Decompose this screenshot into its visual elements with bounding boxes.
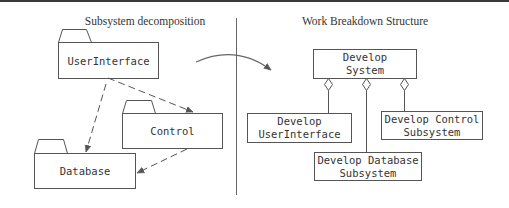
diamond-icon xyxy=(325,79,333,91)
wbs-develop-userinterface[interactable]: Develop UserInterface xyxy=(248,114,352,143)
package-tab-icon xyxy=(123,101,156,114)
wbs-label-line1: Develop Control xyxy=(385,113,480,125)
package-tab-icon xyxy=(59,30,92,43)
dependency-control-to-database xyxy=(137,149,187,173)
package-control[interactable]: Control xyxy=(123,101,223,149)
wbs-label-line1: Develop Database xyxy=(317,154,418,166)
dependency-ui-to-database xyxy=(86,84,106,152)
diagram-canvas: Subsystem decomposition UserInterface Co… xyxy=(0,0,509,208)
aggregation-control xyxy=(401,79,409,112)
package-userinterface[interactable]: UserInterface xyxy=(59,30,159,79)
left-panel-title: Subsystem decomposition xyxy=(85,15,206,28)
diamond-icon xyxy=(401,79,409,91)
wbs-label-line2: System xyxy=(346,64,384,76)
package-tab-icon xyxy=(35,140,68,154)
wbs-develop-database-subsystem[interactable]: Develop Database Subsystem xyxy=(315,153,422,181)
wbs-label-line1: Develop xyxy=(277,115,321,127)
package-database[interactable]: Database xyxy=(35,140,136,189)
right-panel-title: Work Breakdown Structure xyxy=(302,15,428,27)
package-label: UserInterface xyxy=(67,55,149,67)
wbs-label-line2: UserInterface xyxy=(258,128,340,140)
wbs-label-line2: Subsystem xyxy=(404,126,461,138)
transform-arrow-icon xyxy=(196,55,271,70)
wbs-label-line1: Develop xyxy=(343,51,387,63)
package-label: Database xyxy=(60,165,111,177)
wbs-develop-system[interactable]: Develop System xyxy=(314,50,417,79)
wbs-develop-control-subsystem[interactable]: Develop Control Subsystem xyxy=(382,112,483,140)
package-label: Control xyxy=(150,125,194,137)
aggregation-ui xyxy=(325,79,333,114)
wbs-label-line2: Subsystem xyxy=(340,167,397,179)
aggregation-database xyxy=(363,79,371,153)
diamond-icon xyxy=(363,79,371,91)
